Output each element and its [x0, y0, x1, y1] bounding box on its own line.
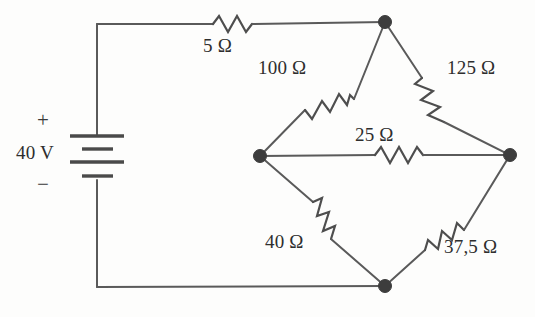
- wire-left-to-25ohm: [260, 155, 375, 156]
- resistor-100-ohm-symbol: [305, 94, 354, 119]
- resistor-100-ohm-label: 100 Ω: [258, 57, 306, 79]
- node-dot-right: [504, 149, 517, 162]
- wire-top-to-125ohm: [385, 22, 422, 78]
- circuit-diagram: + 40 V − 5 Ω 100 Ω 125 Ω 25 Ω 40 Ω 37,5 …: [0, 0, 535, 317]
- polarity-plus-label: +: [37, 108, 49, 133]
- wire-bottom: [97, 286, 385, 287]
- wire-375ohm-to-right: [464, 155, 510, 230]
- node-dot-top: [379, 16, 392, 29]
- resistor-40-ohm-label: 40 Ω: [265, 231, 304, 253]
- resistor-125-ohm-label: 125 Ω: [447, 57, 495, 79]
- resistor-25-ohm-label: 25 Ω: [355, 124, 394, 146]
- wire-125ohm-to-right: [444, 122, 510, 155]
- source-voltage-label: 40 V: [16, 142, 54, 164]
- schematic-canvas: [0, 0, 535, 317]
- resistor-37-5-ohm-label: 37,5 Ω: [444, 236, 497, 258]
- wire-top-right: [252, 22, 385, 24]
- resistor-25-ohm-symbol: [375, 147, 423, 163]
- resistor-5-ohm-label: 5 Ω: [203, 35, 232, 57]
- resistor-40-ohm-symbol: [313, 198, 335, 239]
- polarity-minus-label: −: [37, 172, 49, 197]
- wire-left-to-100ohm: [260, 110, 305, 156]
- wire-left-to-40ohm: [260, 156, 313, 202]
- wire-bottom-to-375ohm: [385, 250, 425, 286]
- node-dot-left: [254, 150, 267, 163]
- wire-40ohm-to-bottom: [331, 239, 385, 286]
- resistor-125-ohm-symbol: [415, 78, 444, 122]
- resistor-5-ohm-symbol: [213, 16, 252, 32]
- wire-100ohm-to-top: [354, 22, 385, 99]
- node-dot-bottom: [379, 280, 392, 293]
